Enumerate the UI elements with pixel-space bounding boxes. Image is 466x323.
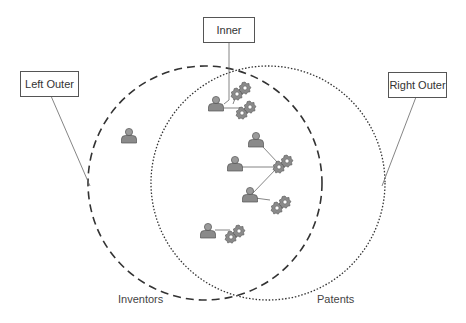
person-icon [122,128,137,143]
right-outer-leader [382,97,416,186]
person-icon [249,132,264,147]
gear-icon [231,82,251,100]
person-icon [201,223,216,238]
venn-diagram [0,0,466,323]
inventors-circle [88,66,322,300]
inventors-label: Inventors [118,293,163,305]
patents-label: Patents [317,293,354,305]
left-outer-leader [51,96,90,186]
gear-icon [225,225,245,243]
person-icon [228,156,243,171]
gear-icon [271,196,291,214]
gear-icon [273,155,293,173]
right-outer-callout: Right Outer [388,72,447,98]
inner-callout: Inner [203,17,255,43]
gear-icon [236,101,256,119]
person-icon [243,187,258,202]
left-outer-callout: Left Outer [20,71,79,97]
person-icon [209,96,224,111]
patents-circle [151,66,385,300]
